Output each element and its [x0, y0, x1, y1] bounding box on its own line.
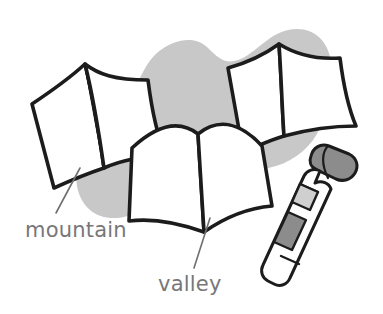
valley-fold-paper-center — [129, 124, 272, 232]
glue-stick — [262, 170, 331, 286]
illustration-canvas: mountain valley — [0, 0, 383, 314]
label-mountain: mountain — [25, 218, 127, 242]
origami-fold-illustration: mountain valley — [0, 0, 383, 314]
label-valley: valley — [158, 272, 222, 296]
